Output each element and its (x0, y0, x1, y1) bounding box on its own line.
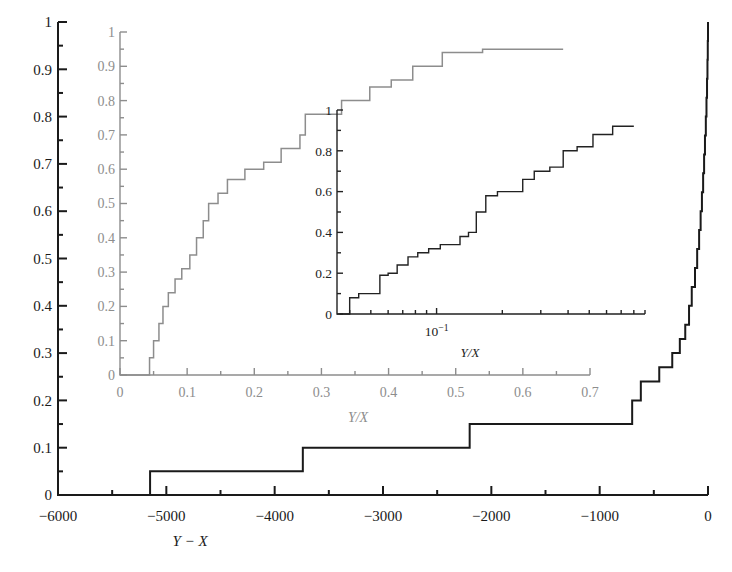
main-plot-ytick-label: 0.5 (33, 251, 52, 267)
main-plot-xtick-label: −3000 (364, 508, 402, 524)
main-plot-xtick-label: 0 (704, 508, 712, 524)
middle-inset-ytick-label: 0.8 (98, 94, 116, 109)
main-plot-ytick-label: 0.1 (33, 440, 52, 456)
middle-inset-xaxis-title: Y/X (348, 410, 369, 425)
main-plot-ytick-label: 0.4 (33, 298, 52, 314)
middle-inset-ytick-label: 0.4 (98, 231, 116, 246)
main-plot-ytick-label: 0.7 (33, 156, 52, 172)
middle-inset-xtick-label: 0.2 (246, 385, 264, 400)
middle-inset-xtick-label: 0.5 (447, 385, 465, 400)
middle-inset-ytick-label: 0.5 (98, 196, 116, 211)
main-plot-ytick-label: 0 (45, 487, 53, 503)
main-plot-curve (58, 22, 708, 495)
middle-inset-ytick-label: 0.1 (98, 334, 116, 349)
middle-inset-xtick-label: 0.6 (514, 385, 532, 400)
main-plot-ytick-label: 0.2 (33, 393, 52, 409)
middle-inset-spine (120, 32, 590, 375)
inner-inset-ytick-label: 0.6 (315, 184, 332, 199)
middle-inset-ytick-label: 0.9 (98, 59, 116, 74)
middle-inset-ytick-label: 0 (108, 368, 115, 383)
inner-inset-curve (340, 126, 634, 314)
main-plot-xtick-label: −4000 (255, 508, 293, 524)
inner-inset-ytick-label: 0 (325, 307, 332, 322)
inner-inset-ytick-label: 0.2 (315, 266, 332, 281)
main-plot: 00.10.20.30.40.50.60.70.80.91−6000−5000−… (33, 14, 712, 549)
ecdf-figure: 00.10.20.30.40.50.60.70.80.91−6000−5000−… (0, 0, 732, 572)
main-plot-ytick-label: 0.3 (33, 345, 52, 361)
middle-inset-ytick-label: 0.2 (98, 299, 116, 314)
middle-inset-ytick-label: 0.3 (98, 265, 116, 280)
inner-inset-ytick-label: 0.4 (315, 225, 332, 240)
middle-inset: 00.10.20.30.40.50.60.70.80.9100.10.20.30… (98, 25, 599, 425)
main-plot-ytick-label: 0.9 (33, 62, 52, 78)
middle-inset-xtick-label: 0.1 (178, 385, 196, 400)
main-plot-xtick-label: −2000 (472, 508, 510, 524)
main-plot-ytick-label: 1 (45, 14, 53, 30)
middle-inset-xtick-label: 0.4 (380, 385, 398, 400)
main-plot-xtick-label: −5000 (147, 508, 185, 524)
inner-inset-ytick-label: 1 (325, 103, 332, 118)
middle-inset-ytick-label: 0.7 (98, 128, 116, 143)
main-plot-ytick-label: 0.8 (33, 109, 52, 125)
middle-inset-ytick-label: 1 (108, 25, 115, 40)
middle-inset-xtick-label: 0.3 (313, 385, 331, 400)
middle-inset-curve (120, 49, 563, 375)
main-plot-ytick-label: 0.6 (33, 203, 52, 219)
middle-inset-ytick-label: 0.6 (98, 162, 116, 177)
inner-inset-spine (337, 110, 645, 314)
middle-inset-xtick-label: 0 (117, 385, 124, 400)
inner-inset-ytick-label: 0.8 (315, 144, 332, 159)
main-plot-xaxis-title: Y − X (172, 533, 208, 549)
figure-canvas: 00.10.20.30.40.50.60.70.80.91−6000−5000−… (0, 0, 732, 572)
main-plot-xtick-label: −1000 (580, 508, 618, 524)
inner-inset: 00.20.40.60.8110−1Y/X (315, 103, 645, 360)
main-plot-xtick-label: −6000 (39, 508, 77, 524)
middle-inset-xtick-label: 0.7 (581, 385, 599, 400)
inner-inset-xtick-label: 10−1 (425, 322, 449, 340)
inner-inset-xaxis-title: Y/X (461, 345, 481, 360)
